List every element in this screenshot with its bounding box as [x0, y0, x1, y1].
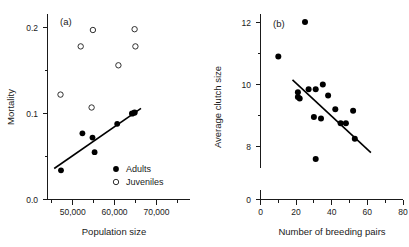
- panel-b-series-points: [275, 19, 358, 162]
- panel-a-legend: Adults Juveniles: [113, 164, 164, 187]
- panel-b-xlabel: Number of breeding pairs: [278, 226, 385, 237]
- panel-a-ytick-1: 0.1: [26, 109, 38, 119]
- panel-a-ytick-2: 0.2: [26, 23, 38, 33]
- panel-a-xtick-70000: 70,000: [144, 207, 170, 217]
- panel-b-ytick-10: 10: [242, 80, 252, 90]
- legend-marker-juveniles: [113, 179, 118, 184]
- panel-b-yaxis-lower-and-xaxis: [261, 190, 404, 200]
- panel-b-y-ticks: [256, 23, 261, 200]
- panel-a-series-juveniles: [58, 27, 138, 111]
- legend-label-adults: Adults: [126, 164, 152, 174]
- panel-b-plot: 12 10 8 0 0 20 40 60 80 Number of: [205, 0, 409, 247]
- panel-a-ytick-0: 0.0: [26, 195, 38, 205]
- panel-b-xtick-60: 60: [363, 207, 373, 217]
- panel-a-label: (a): [60, 16, 72, 27]
- panel-b-xtick-0: 0: [258, 207, 263, 217]
- legend-label-juveniles: Juveniles: [126, 177, 164, 187]
- panel-a-y-ticks: [43, 28, 48, 200]
- panel-a-ylabel: Mortality: [5, 89, 16, 125]
- panel-b-xtick-20: 20: [291, 207, 301, 217]
- panel-a-x-ticks: [52, 200, 178, 205]
- panel-a-xtick-50000: 50,000: [60, 207, 86, 217]
- legend-marker-adults: [113, 166, 119, 172]
- panel-b-ytick-8: 8: [246, 142, 251, 152]
- panel-b-ytick-12: 12: [242, 18, 252, 28]
- figure-container: 0.0 0.1 0.2 50,000 60,000 70,000 Populat…: [0, 0, 409, 247]
- panel-a: 0.0 0.1 0.2 50,000 60,000 70,000 Populat…: [0, 0, 205, 247]
- panel-a-xlabel: Population size: [82, 226, 146, 237]
- panel-b-xtick-80: 80: [398, 207, 408, 217]
- panel-b-label: (b): [273, 18, 285, 29]
- panel-a-fit-line: [54, 108, 141, 168]
- panel-b-ytick-origin: 0: [246, 195, 251, 205]
- panel-a-plot: 0.0 0.1 0.2 50,000 60,000 70,000 Populat…: [0, 0, 205, 247]
- panel-a-axes: [48, 14, 191, 200]
- panel-b-xtick-40: 40: [327, 207, 337, 217]
- panel-b-fit-line: [293, 80, 371, 153]
- panel-a-xtick-60000: 60,000: [102, 207, 128, 217]
- panel-b-x-ticks: [261, 200, 404, 205]
- panel-b: 12 10 8 0 0 20 40 60 80 Number of: [205, 0, 409, 247]
- panel-b-ylabel: Average clutch size: [212, 66, 223, 148]
